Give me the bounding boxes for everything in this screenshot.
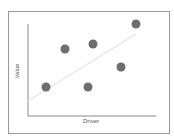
- data-point: [132, 20, 141, 29]
- data-point: [84, 83, 93, 92]
- data-point: [42, 83, 51, 92]
- data-point: [117, 63, 126, 72]
- y-axis-label: Value: [14, 56, 20, 86]
- x-axis-label: Driver: [70, 118, 112, 124]
- data-point: [61, 45, 70, 54]
- data-point: [89, 40, 98, 49]
